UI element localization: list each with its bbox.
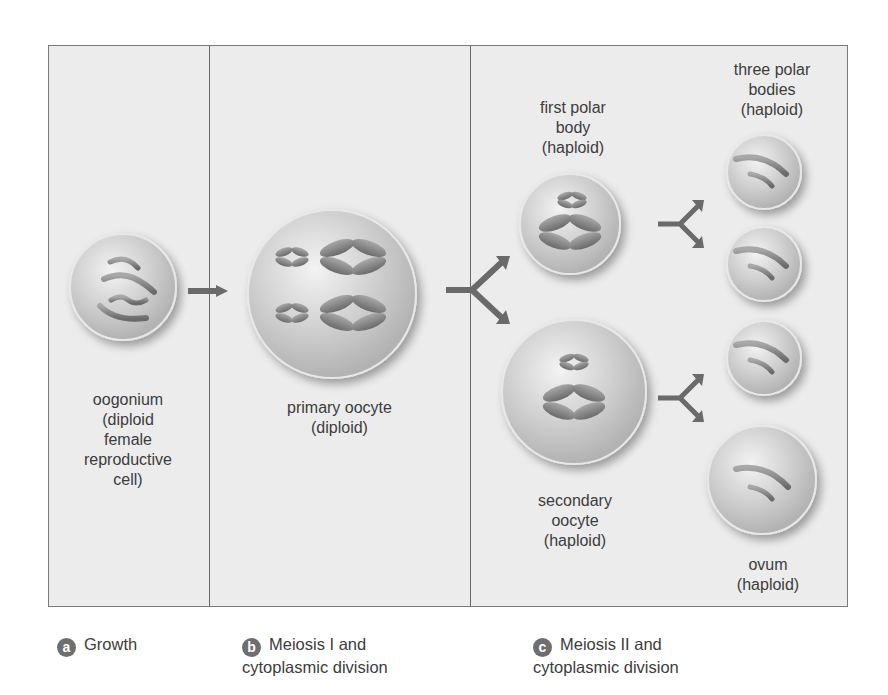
secondary-oocyte-cell — [502, 322, 662, 472]
arrow-split-meiosis-1 — [444, 252, 514, 332]
caption-c-line1: Meiosis II and — [560, 635, 662, 653]
oogonium-cell — [66, 232, 186, 342]
caption-a-text: Growth — [84, 635, 137, 653]
badge-a: a — [57, 638, 76, 657]
primary-oocyte-label: primary oocyte (diploid) — [209, 398, 470, 438]
first-polar-body-label: first polar body (haploid) — [508, 98, 638, 158]
three-polar-bodies-label: three polar bodies (haploid) — [712, 60, 832, 120]
badge-c: c — [533, 638, 552, 657]
oogonium-label: oogonium (diploid female reproductive ce… — [48, 390, 208, 490]
arrow-oogonium-to-primary — [186, 282, 230, 300]
caption-c-line2: cytoplasmic division — [533, 658, 679, 676]
caption-a: aGrowth — [57, 634, 137, 657]
caption-b-line2: cytoplasmic division — [242, 658, 388, 676]
caption-b-line1: Meiosis I and — [269, 635, 366, 653]
caption-c: cMeiosis II and cytoplasmic division — [533, 634, 679, 677]
panel-divider-ab — [209, 46, 210, 606]
primary-oocyte-cell — [240, 210, 440, 390]
secondary-oocyte-label: secondary oocyte (haploid) — [505, 491, 645, 551]
arrow-split-secondary-oocyte — [656, 370, 712, 426]
arrow-split-first-polar-body — [656, 196, 712, 252]
polar-body-1 — [724, 134, 814, 218]
ovum-label: ovum (haploid) — [718, 555, 818, 595]
first-polar-body-cell — [515, 172, 635, 282]
caption-b: bMeiosis I and cytoplasmic division — [242, 634, 388, 677]
polar-body-3 — [724, 320, 814, 404]
badge-b: b — [242, 638, 261, 657]
ovum-cell — [706, 425, 836, 545]
polar-body-2 — [724, 226, 814, 310]
